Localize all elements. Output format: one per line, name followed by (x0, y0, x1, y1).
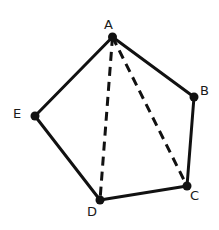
side-DE (35, 116, 100, 200)
vertex-A (108, 33, 117, 42)
side-BC (187, 97, 194, 186)
vertex-E (31, 112, 40, 121)
diagram-svg: A B C D E (0, 0, 219, 230)
diagonal-AD (100, 37, 113, 200)
side-EA (35, 37, 113, 116)
side-AB (113, 37, 195, 97)
label-A: A (104, 17, 113, 32)
label-B: B (200, 83, 209, 98)
side-CD (100, 186, 187, 200)
diagonal-AC (113, 37, 188, 186)
vertex-B (190, 93, 199, 102)
label-E: E (13, 106, 21, 121)
label-C: C (190, 188, 199, 203)
pentagon-diagram: A B C D E (0, 0, 219, 230)
label-D: D (87, 204, 97, 219)
